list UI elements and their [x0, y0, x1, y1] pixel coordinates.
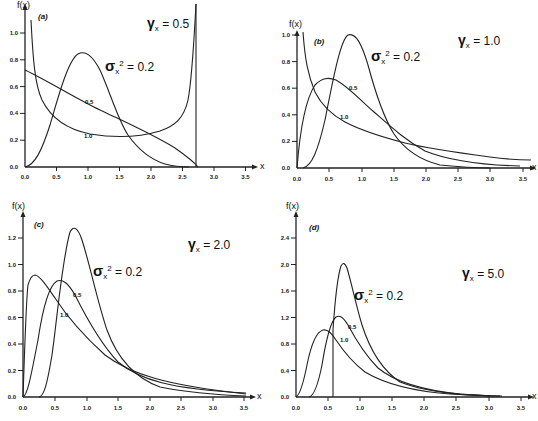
panel-b-sigma-label: σx2 = 0.2: [371, 47, 420, 66]
panel-c-label-0.5: 0.5: [73, 292, 81, 298]
svg-text:0.6: 0.6: [8, 315, 17, 321]
panel-d-xlabel: x: [532, 391, 537, 401]
svg-text:3.5: 3.5: [241, 174, 250, 180]
svg-text:1.5: 1.5: [115, 174, 124, 180]
svg-text:1.0: 1.0: [83, 405, 92, 411]
svg-text:3.5: 3.5: [517, 405, 526, 411]
svg-text:3.5: 3.5: [519, 176, 528, 182]
figure-canvas: 0.00.51.01.52.02.53.03.5 0.00.20.40.60.8…: [0, 0, 538, 421]
svg-text:0.6: 0.6: [10, 84, 19, 90]
svg-text:0.0: 0.0: [292, 405, 301, 411]
panel-d-gamma-label: γx = 5.0: [462, 265, 504, 283]
panel-a-axes: 0.00.51.01.52.02.53.03.5 0.00.20.40.60.8…: [10, 4, 258, 180]
svg-text:1.0: 1.0: [356, 405, 365, 411]
curve-a-0.5: [25, 70, 198, 167]
panel-d-label-1.0: 1.0: [340, 337, 348, 343]
svg-text:0.0: 0.0: [8, 394, 17, 400]
svg-text:3.0: 3.0: [485, 405, 494, 411]
panel-d-curves: [296, 264, 502, 397]
svg-text:1.0: 1.0: [84, 174, 93, 180]
svg-text:1.5: 1.5: [390, 176, 399, 182]
svg-text:0.4: 0.4: [8, 341, 17, 347]
svg-text:0.5: 0.5: [52, 174, 61, 180]
svg-text:1.2: 1.2: [8, 235, 17, 241]
svg-text:1.0: 1.0: [10, 30, 19, 36]
svg-text:3.0: 3.0: [486, 176, 495, 182]
svg-text:1.0: 1.0: [358, 176, 367, 182]
svg-text:2.0: 2.0: [147, 174, 156, 180]
svg-text:0.4: 0.4: [281, 368, 290, 374]
svg-text:0.5: 0.5: [325, 176, 334, 182]
panel-c-tag: (c): [34, 220, 44, 229]
svg-text:0.0: 0.0: [19, 405, 28, 411]
svg-text:0.5: 0.5: [51, 405, 60, 411]
panel-a-xlabel: x: [260, 161, 265, 171]
panel-a-ylabel: f(x): [17, 0, 30, 10]
panel-a-tag: (a): [38, 12, 48, 21]
panel-b-gamma-label: γx = 1.0: [458, 32, 500, 50]
panel-b-ylabel: f(x): [289, 19, 302, 29]
svg-text:2.4: 2.4: [281, 235, 290, 241]
panel-d-tag: (d): [309, 223, 319, 232]
panel-b-tag: (b): [314, 37, 324, 46]
svg-text:0.2: 0.2: [10, 137, 19, 143]
svg-text:0.0: 0.0: [281, 394, 290, 400]
svg-text:2.5: 2.5: [177, 405, 186, 411]
svg-text:0.8: 0.8: [10, 57, 19, 63]
curve-c-0.5: [23, 281, 246, 397]
panel-b-xlabel: x: [532, 162, 537, 172]
panel-c-xlabel: x: [257, 391, 262, 401]
svg-text:3.0: 3.0: [209, 405, 218, 411]
curve-d-0.5: [309, 316, 500, 397]
svg-text:2.0: 2.0: [422, 176, 431, 182]
panel-a-label-0.5: 0.5: [85, 99, 93, 105]
panel-b-label-1.0: 1.0: [340, 114, 348, 120]
svg-text:1.0: 1.0: [8, 262, 17, 268]
svg-text:0.0: 0.0: [21, 174, 30, 180]
panel-d-label-0.5: 0.5: [348, 324, 356, 330]
svg-text:0.0: 0.0: [293, 176, 302, 182]
svg-text:0.0: 0.0: [282, 165, 291, 171]
svg-text:1.0: 1.0: [282, 32, 291, 38]
svg-text:1.5: 1.5: [388, 405, 397, 411]
svg-text:0.8: 0.8: [281, 341, 290, 347]
svg-text:3.5: 3.5: [240, 405, 249, 411]
panel-d-sigma-label: σx2 = 0.2: [354, 286, 403, 305]
panel-b-label-0.5: 0.5: [349, 85, 357, 91]
svg-text:3.0: 3.0: [210, 174, 219, 180]
svg-text:2.0: 2.0: [146, 405, 155, 411]
svg-text:0.8: 0.8: [8, 288, 17, 294]
panel-a-gamma-label: γx = 0.5: [147, 15, 189, 33]
svg-text:0.6: 0.6: [282, 85, 291, 91]
svg-text:0.4: 0.4: [282, 112, 291, 118]
svg-text:2.5: 2.5: [452, 405, 461, 411]
panel-c-sigma-label: σx2 = 0.2: [93, 262, 142, 281]
svg-text:0.5: 0.5: [324, 405, 333, 411]
svg-text:1.2: 1.2: [281, 315, 290, 321]
panel-c-gamma-label: γx = 2.0: [188, 236, 230, 254]
svg-text:2.5: 2.5: [454, 176, 463, 182]
panel-a-label-1.0: 1.0: [84, 133, 92, 139]
curve-c-1.0: [23, 275, 246, 397]
svg-text:1.5: 1.5: [114, 405, 123, 411]
svg-text:0.2: 0.2: [8, 368, 17, 374]
panel-d-ylabel: f(x): [286, 201, 299, 211]
svg-text:0.4: 0.4: [10, 110, 19, 116]
svg-text:2.5: 2.5: [178, 174, 187, 180]
svg-text:0.2: 0.2: [282, 138, 291, 144]
svg-text:0.0: 0.0: [10, 164, 19, 170]
svg-text:0.8: 0.8: [282, 59, 291, 65]
panel-a-sigma-label: σx2 = 0.2: [105, 57, 154, 76]
svg-text:2.0: 2.0: [281, 262, 290, 268]
panel-c-label-1.0: 1.0: [60, 312, 68, 318]
svg-text:2.0: 2.0: [420, 405, 429, 411]
curve-d-sigma-0.2: [333, 264, 490, 397]
svg-text:1.6: 1.6: [281, 288, 290, 294]
panel-c-ylabel: f(x): [12, 201, 25, 211]
